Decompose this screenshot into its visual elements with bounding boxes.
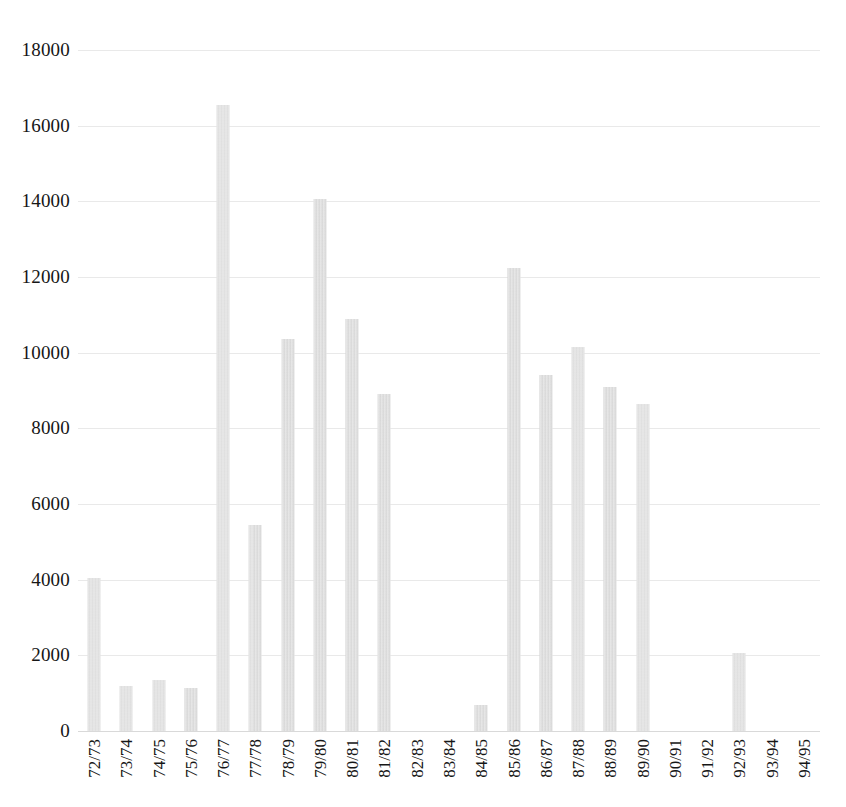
bar bbox=[636, 404, 649, 731]
bar-slot bbox=[530, 50, 562, 731]
x-axis-tick-label: 82/83 bbox=[408, 739, 425, 778]
x-axis-tick-slot: 83/84 bbox=[433, 735, 465, 807]
x-axis-tick-slot: 81/82 bbox=[368, 735, 400, 807]
bar-slot bbox=[272, 50, 304, 731]
x-axis-tick-label: 80/81 bbox=[344, 739, 361, 778]
x-axis-tick-label: 78/79 bbox=[279, 739, 296, 778]
x-axis-tick-label: 88/89 bbox=[602, 739, 619, 778]
bar-slot bbox=[239, 50, 271, 731]
x-axis-tick-label: 72/73 bbox=[86, 739, 103, 778]
x-axis-tick-label: 73/74 bbox=[118, 739, 135, 778]
y-axis-tick-label: 2000 bbox=[0, 645, 70, 664]
x-axis-tick-slot: 80/81 bbox=[336, 735, 368, 807]
y-axis-tick-label: 14000 bbox=[0, 191, 70, 210]
bar-slot bbox=[788, 50, 820, 731]
x-axis-tick-slot: 94/95 bbox=[788, 735, 820, 807]
bar-slot bbox=[401, 50, 433, 731]
bar bbox=[507, 268, 520, 731]
x-axis-tick-slot: 92/93 bbox=[723, 735, 755, 807]
bar bbox=[378, 394, 391, 731]
y-axis-tick-label: 18000 bbox=[0, 40, 70, 59]
bar bbox=[120, 686, 133, 731]
x-axis-tick-label: 91/92 bbox=[699, 739, 716, 778]
bar bbox=[184, 688, 197, 732]
x-axis-tick-label: 94/95 bbox=[795, 739, 812, 778]
x-axis-tick-slot: 75/76 bbox=[175, 735, 207, 807]
x-axis-tick-label: 75/76 bbox=[182, 739, 199, 778]
bar-slot bbox=[143, 50, 175, 731]
bar bbox=[733, 653, 746, 731]
x-axis-tick-slot: 85/86 bbox=[497, 735, 529, 807]
bar-slot bbox=[368, 50, 400, 731]
y-axis-tick-label: 4000 bbox=[0, 570, 70, 589]
x-axis-tick-slot: 79/80 bbox=[304, 735, 336, 807]
x-axis-tick-label: 83/84 bbox=[440, 739, 457, 778]
x-axis-tick-slot: 86/87 bbox=[530, 735, 562, 807]
x-axis-tick-label: 81/82 bbox=[376, 739, 393, 778]
x-axis-tick-slot: 87/88 bbox=[562, 735, 594, 807]
y-axis-tick-label: 16000 bbox=[0, 116, 70, 135]
x-axis-tick-labels: 72/7373/7474/7575/7676/7777/7878/7979/80… bbox=[78, 735, 820, 807]
y-axis-tick-label: 12000 bbox=[0, 267, 70, 286]
x-axis-tick-label: 76/77 bbox=[215, 739, 232, 778]
bar-slot bbox=[465, 50, 497, 731]
bar-slot bbox=[562, 50, 594, 731]
y-axis-tick-label: 0 bbox=[0, 721, 70, 740]
x-axis-tick-slot: 84/85 bbox=[465, 735, 497, 807]
x-axis-tick-label: 77/78 bbox=[247, 739, 264, 778]
bar-slot bbox=[691, 50, 723, 731]
bar bbox=[152, 680, 165, 731]
bar bbox=[539, 375, 552, 731]
x-axis-tick-slot: 72/73 bbox=[78, 735, 110, 807]
x-axis-tick-slot: 77/78 bbox=[239, 735, 271, 807]
y-axis-tick-label: 6000 bbox=[0, 494, 70, 513]
bar-slot bbox=[755, 50, 787, 731]
x-axis-tick-label: 89/90 bbox=[634, 739, 651, 778]
y-axis-tick-labels: 1800016000140001200010000800060004000200… bbox=[0, 0, 70, 807]
axis-baseline bbox=[78, 731, 820, 732]
bar-chart: 1800016000140001200010000800060004000200… bbox=[0, 0, 846, 807]
x-axis-tick-slot: 78/79 bbox=[272, 735, 304, 807]
bar-slot bbox=[497, 50, 529, 731]
bar-slot bbox=[207, 50, 239, 731]
x-axis-tick-slot: 82/83 bbox=[401, 735, 433, 807]
x-axis-tick-label: 90/91 bbox=[666, 739, 683, 778]
bar-slot bbox=[175, 50, 207, 731]
bar bbox=[88, 578, 101, 731]
x-axis-tick-label: 84/85 bbox=[473, 739, 490, 778]
x-axis-tick-slot: 88/89 bbox=[594, 735, 626, 807]
x-axis-tick-slot: 93/94 bbox=[755, 735, 787, 807]
x-axis-tick-label: 92/93 bbox=[731, 739, 748, 778]
y-axis-tick-label: 8000 bbox=[0, 418, 70, 437]
bar-slot bbox=[594, 50, 626, 731]
bar bbox=[604, 387, 617, 731]
bar-slot bbox=[336, 50, 368, 731]
bar-slot bbox=[723, 50, 755, 731]
y-axis-tick-label: 10000 bbox=[0, 343, 70, 362]
x-axis-tick-slot: 76/77 bbox=[207, 735, 239, 807]
x-axis-tick-label: 74/75 bbox=[150, 739, 167, 778]
bar-slot bbox=[304, 50, 336, 731]
bar-slot bbox=[110, 50, 142, 731]
plot-area bbox=[78, 50, 820, 731]
x-axis-tick-slot: 73/74 bbox=[110, 735, 142, 807]
x-axis-tick-label: 87/88 bbox=[570, 739, 587, 778]
bar-series bbox=[78, 50, 820, 731]
x-axis-tick-slot: 90/91 bbox=[659, 735, 691, 807]
bar-slot bbox=[659, 50, 691, 731]
x-axis-tick-label: 79/80 bbox=[311, 739, 328, 778]
bar bbox=[475, 705, 488, 731]
bar bbox=[249, 525, 262, 731]
bar-slot bbox=[626, 50, 658, 731]
bar bbox=[346, 319, 359, 731]
x-axis-tick-slot: 74/75 bbox=[143, 735, 175, 807]
x-axis-tick-label: 85/86 bbox=[505, 739, 522, 778]
bar bbox=[313, 199, 326, 731]
x-axis-tick-slot: 91/92 bbox=[691, 735, 723, 807]
x-axis-tick-slot: 89/90 bbox=[626, 735, 658, 807]
bar-slot bbox=[78, 50, 110, 731]
x-axis-tick-label: 93/94 bbox=[763, 739, 780, 778]
x-axis-tick-label: 86/87 bbox=[537, 739, 554, 778]
bar bbox=[281, 339, 294, 731]
bar-slot bbox=[433, 50, 465, 731]
